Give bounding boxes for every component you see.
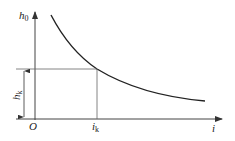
hk-label: hk [10, 91, 24, 101]
origin-label: O [29, 120, 37, 132]
x-axis-label: i [212, 122, 215, 134]
diagram-canvas: h0 i O ik hk [0, 0, 235, 141]
curve-h0 [51, 15, 205, 101]
ik-label: ik [92, 120, 99, 134]
figure: h0 i O ik hk [0, 0, 235, 141]
y-axis-label: h0 [19, 9, 29, 23]
